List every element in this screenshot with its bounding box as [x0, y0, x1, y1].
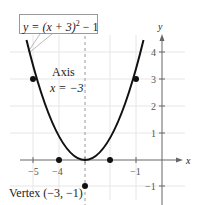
equation-callout-lines: [28, 34, 52, 52]
y-axis-label: y: [157, 21, 163, 32]
x-tick-neg5: −5: [28, 166, 39, 177]
y-tick-4: 4: [151, 47, 156, 58]
equation-suffix: − 1: [80, 20, 99, 34]
equation-label-box: y = (x + 3)2 − 1: [19, 14, 98, 34]
y-tick-3: 3: [151, 74, 156, 85]
point-neg1-3: [133, 76, 139, 82]
point-vertex: [82, 183, 88, 189]
point-neg2-0: [107, 157, 113, 163]
x-axis: [20, 157, 183, 163]
x-axis-label: x: [185, 155, 191, 166]
point-neg4-0: [56, 157, 62, 163]
axis-annotation-equation: x = −3: [49, 81, 84, 95]
x-tick-neg4: −4: [52, 166, 63, 177]
y-tick-1: 1: [151, 128, 156, 139]
axis-annotation-title: Axis: [52, 65, 75, 79]
equation-prefix: y = (x + 3): [23, 20, 76, 34]
x-tick-neg1: −1: [130, 166, 141, 177]
y-tick-2: 2: [151, 101, 156, 112]
vertex-label: Vertex (−3, −1): [9, 186, 83, 200]
y-tick-neg1: −1: [145, 181, 156, 192]
y-axis: [159, 34, 165, 205]
parabola-curve: [27, 40, 144, 160]
point-neg5-3: [30, 76, 36, 82]
